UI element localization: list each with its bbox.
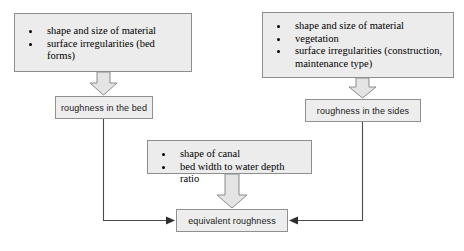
roughness-in-the-sides-box: roughness in the sides <box>305 99 421 122</box>
roughness-in-the-bed-label: roughness in the bed <box>61 103 147 113</box>
list-item: shape of canal <box>154 148 305 161</box>
roughness-in-the-bed-box: roughness in the bed <box>55 96 153 119</box>
bed-factors-list: shape and size of material surface irreg… <box>15 14 191 63</box>
arrowhead-left-in <box>166 217 175 225</box>
roughness-in-the-sides-label: roughness in the sides <box>317 106 409 116</box>
canal-factors-box: shape of canal bed width to water depth … <box>147 140 312 174</box>
bed-factors-box: shape and size of material surface irreg… <box>14 13 192 72</box>
side-factors-list: shape and size of material vegetation su… <box>263 13 453 70</box>
list-item: surface irregularities (bed forms) <box>21 38 185 63</box>
arrowhead-right-in <box>289 217 298 225</box>
equivalent-roughness-label: equivalent roughness <box>188 216 276 226</box>
list-item: surface irregularities (construction, ma… <box>269 45 447 70</box>
list-item: vegetation <box>269 33 447 46</box>
block-arrow-down-bed <box>90 72 117 95</box>
canal-factors-list: shape of canal bed width to water depth … <box>148 141 311 186</box>
list-item: shape and size of material <box>269 20 447 33</box>
block-arrow-down-sides <box>349 78 376 98</box>
list-item: shape and size of material <box>21 25 185 38</box>
flow-diagram: shape and size of material surface irreg… <box>0 0 464 251</box>
side-factors-box: shape and size of material vegetation su… <box>262 12 454 78</box>
list-item: bed width to water depth ratio <box>154 161 305 186</box>
equivalent-roughness-box: equivalent roughness <box>176 209 288 232</box>
